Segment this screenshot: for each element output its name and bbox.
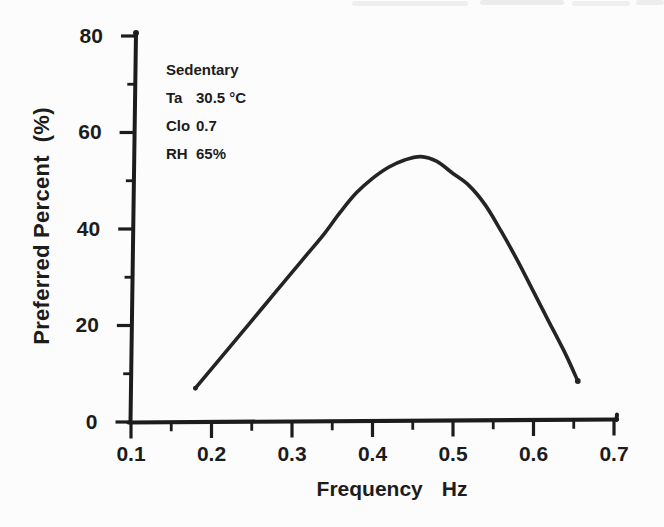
- x-tick-label: 0.1: [116, 442, 146, 465]
- preferred-percent-curve: [195, 157, 577, 389]
- y-axis-top-cap: [133, 30, 139, 36]
- annotation-label: RH: [166, 145, 196, 162]
- annotation-row-rh: RH 65%: [166, 145, 246, 162]
- y-axis-line: [131, 33, 137, 423]
- annotation-value: 65%: [196, 145, 226, 162]
- x-tick-label: 0.3: [277, 442, 306, 465]
- x-tick-label: 0.6: [519, 442, 548, 465]
- y-tick-label: 60: [78, 120, 101, 143]
- y-tick-label: 20: [76, 313, 99, 336]
- annotation-row-ta: Ta 30.5 °C: [166, 89, 246, 106]
- y-tick-label: 40: [77, 217, 100, 240]
- x-tick-label: 0.2: [197, 442, 226, 465]
- chart-canvas: 0.10.20.30.40.50.60.7020406080: [0, 0, 664, 527]
- x-axis-title-word: Frequency: [317, 477, 423, 501]
- annotation-row-clo: Clo 0.7: [166, 117, 246, 134]
- y-tick-label: 0: [86, 410, 98, 433]
- x-axis-title: Frequency Hz: [317, 477, 468, 501]
- x-tick-label: 0.5: [438, 442, 468, 465]
- annotation-title: Sedentary: [166, 61, 246, 78]
- scanned-chart-page: 0.10.20.30.40.50.60.7020406080 Preferred…: [0, 0, 664, 527]
- x-axis-line: [129, 420, 618, 423]
- curve-end-cap: [575, 378, 581, 384]
- annotation-value: 30.5 °C: [196, 89, 246, 106]
- x-axis-title-unit: Hz: [442, 477, 468, 501]
- annotation-value: 0.7: [196, 117, 217, 134]
- condition-annotation: Sedentary Ta 30.5 °C Clo 0.7 RH 65%: [166, 61, 246, 162]
- curve-start-cap: [193, 386, 198, 391]
- annotation-label: Clo: [166, 117, 196, 134]
- y-axis-title: Preferred Percent (%): [29, 107, 55, 345]
- annotation-label: Ta: [166, 89, 196, 106]
- x-tick-label: 0.7: [599, 442, 628, 465]
- x-axis-end-cap: [617, 415, 618, 421]
- x-tick-label: 0.4: [358, 442, 388, 465]
- y-tick-label: 80: [80, 24, 103, 47]
